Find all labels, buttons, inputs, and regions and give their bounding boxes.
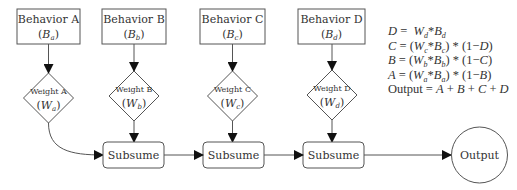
- weight-d-symbol: (Wd): [320, 96, 344, 110]
- arrow-weight-a-to-subsume-1: [49, 123, 104, 155]
- subsume-2-node: Subsume: [203, 142, 264, 168]
- equation-b: B = (Wb*Bb) * (1−C): [388, 53, 509, 68]
- subsume-1-label: Subsume: [108, 149, 159, 162]
- subsume-3-node: Subsume: [303, 142, 364, 168]
- weight-d-node: Weight D (Wd): [307, 70, 357, 120]
- equation-output: Output = A + B + C + D: [388, 82, 509, 97]
- behavior-a-node: Behavior A (Ba): [17, 9, 80, 44]
- behavior-a-symbol: (Ba): [38, 28, 59, 42]
- weight-b-node: Weight B (Wb): [109, 71, 159, 121]
- behavior-c-symbol: (Bc): [222, 28, 243, 42]
- weight-b-label: Weight B: [116, 85, 153, 94]
- subsume-1-node: Subsume: [103, 142, 164, 168]
- behavior-b-symbol: (Bb): [123, 28, 144, 42]
- output-label: Output: [460, 149, 500, 162]
- behavior-b-label: Behavior B: [103, 13, 164, 26]
- behavior-c-label: Behavior C: [202, 13, 264, 26]
- behavior-c-node: Behavior C (Bc): [200, 9, 265, 44]
- weight-c-label: Weight C: [214, 85, 251, 94]
- weight-b-symbol: (Wb): [122, 97, 146, 111]
- weight-a-node: Weight A (Wa): [24, 73, 74, 123]
- weight-a-label: Weight A: [30, 87, 67, 96]
- subsume-3-label: Subsume: [308, 149, 359, 162]
- behavior-d-label: Behavior D: [300, 13, 362, 26]
- output-node: Output: [452, 127, 508, 183]
- behavior-d-symbol: (Bd): [321, 28, 342, 42]
- weight-c-symbol: (Wc): [221, 97, 245, 111]
- equations-block: D = Wd*Bd C = (Wc*Bc) * (1−D) B = (Wb*Bb…: [388, 24, 509, 97]
- equation-d: D = Wd*Bd: [388, 24, 509, 39]
- weight-a-symbol: (Wa): [36, 99, 60, 113]
- behavior-d-node: Behavior D (Bd): [298, 9, 365, 44]
- equation-c: C = (Wc*Bc) * (1−D): [388, 39, 509, 54]
- subsume-2-label: Subsume: [208, 149, 259, 162]
- weight-c-node: Weight C (Wc): [208, 71, 258, 121]
- behavior-b-node: Behavior B (Bb): [102, 9, 166, 44]
- behavior-a-label: Behavior A: [18, 13, 80, 26]
- weight-d-label: Weight D: [313, 84, 350, 93]
- equation-a: A = (Wa*Ba) * (1−B): [388, 68, 509, 83]
